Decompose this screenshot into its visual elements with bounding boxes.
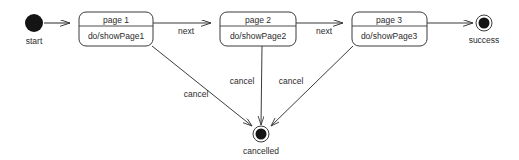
- node-cancelled-label: cancelled: [243, 146, 279, 156]
- state-name-label: page 2: [245, 15, 271, 25]
- transition-page1-to-page2: next: [153, 23, 211, 36]
- node-page2[interactable]: page 2 do/showPage2: [220, 12, 296, 46]
- transition-line: [271, 46, 353, 126]
- transition-label-cancel-2: cancel: [230, 76, 255, 86]
- state-name-label: page 1: [103, 15, 129, 25]
- transition-label-cancel-1: cancel: [184, 89, 209, 99]
- initial-state-icon: [25, 14, 43, 32]
- node-page1[interactable]: page 1 do/showPage1: [79, 12, 153, 46]
- node-page3[interactable]: page 3 do/showPage3: [352, 12, 427, 46]
- node-start-label: start: [26, 36, 43, 46]
- transition-label-next-1: next: [178, 26, 195, 36]
- state-activity-label: do/showPage3: [361, 31, 418, 41]
- transition-page2-to-cancelled: cancel: [230, 46, 262, 125]
- final-state-core-icon: [479, 18, 490, 29]
- node-cancelled[interactable]: cancelled: [243, 126, 279, 156]
- transition-page2-to-page3: next: [296, 23, 343, 36]
- state-name-label: page 3: [376, 15, 402, 25]
- transition-line: [261, 46, 262, 125]
- transition-line: [152, 46, 252, 126]
- transition-page1-to-cancelled: cancel: [152, 46, 252, 126]
- transition-page3-to-cancelled: cancel: [271, 46, 353, 126]
- node-success-label: success: [469, 35, 500, 45]
- state-activity-label: do/showPage2: [230, 31, 287, 41]
- node-success[interactable]: success: [469, 15, 500, 45]
- transition-label-next-2: next: [316, 26, 333, 36]
- transition-label-cancel-3: cancel: [279, 76, 304, 86]
- final-state-core-icon: [256, 129, 267, 140]
- state-diagram-canvas: next next cancel cancel cancel s: [0, 0, 519, 160]
- state-diagram-svg: next next cancel cancel cancel s: [0, 0, 519, 160]
- node-start[interactable]: start: [25, 14, 43, 46]
- state-activity-label: do/showPage1: [88, 31, 145, 41]
